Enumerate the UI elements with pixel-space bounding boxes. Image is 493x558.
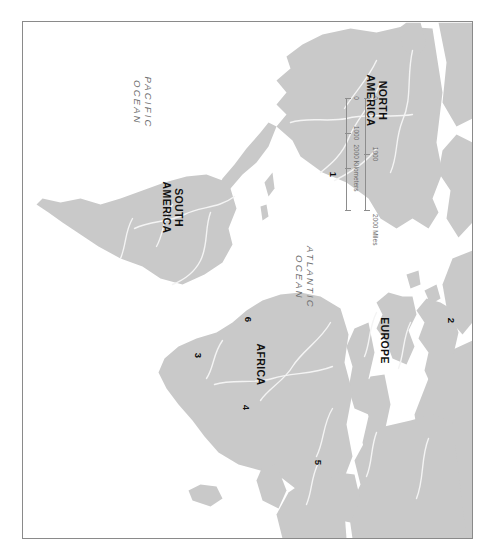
scale-bar-container: 0 1000 2000 Miles 0 1000 2000 Kilometers — [337, 98, 381, 222]
map-frame[interactable]: NORTH AMERICA SOUTH AMERICA EUROPE AFRIC… — [22, 21, 473, 539]
scale-tick-km-1000 — [345, 133, 351, 134]
scale-unit-miles: 2000 Miles — [372, 214, 379, 245]
world-landmass-artwork — [23, 22, 472, 538]
scale-bar: 0 1000 2000 Miles 0 1000 2000 Kilometers — [337, 98, 381, 222]
scale-tick-km-2000 — [345, 168, 351, 169]
scale-tick-km-end — [345, 210, 351, 211]
scale-label-km-0: 0 — [353, 96, 360, 100]
scale-bar-kilometers: 0 1000 2000 Kilometers — [340, 98, 358, 210]
scale-label-km-1000: 1000 — [353, 126, 360, 140]
scale-tick-miles-2000 — [364, 210, 370, 211]
scale-tick-miles-0 — [364, 98, 370, 99]
map-canvas[interactable]: NORTH AMERICA SOUTH AMERICA EUROPE AFRIC… — [23, 22, 472, 538]
scale-label-miles-0: 0 — [372, 96, 379, 100]
scale-label-km-2000: 2000 Kilometers — [353, 145, 360, 192]
scale-tick-miles-1000 — [364, 154, 370, 155]
scale-bar-miles: 0 1000 2000 Miles — [359, 98, 377, 210]
scale-bar-km-axis — [346, 98, 347, 210]
scale-label-miles-1000: 1000 — [372, 147, 379, 161]
map-screenshot: NORTH AMERICA SOUTH AMERICA EUROPE AFRIC… — [0, 0, 493, 558]
scale-tick-km-0 — [345, 98, 351, 99]
